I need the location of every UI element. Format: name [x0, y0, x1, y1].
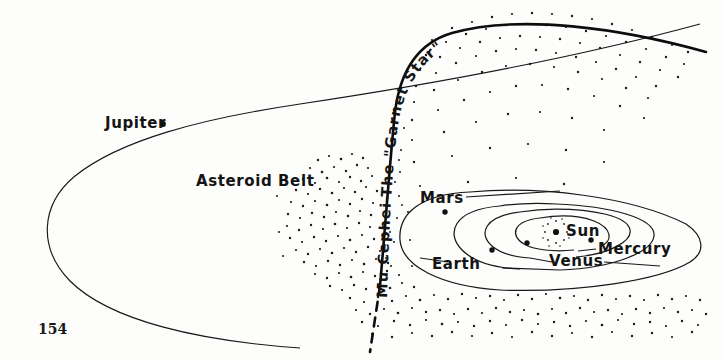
label-venus: Venus [549, 252, 603, 270]
label-sun: Sun [566, 222, 600, 240]
mercury-leader [578, 249, 596, 251]
earth-dot [489, 247, 494, 252]
label-mercury: Mercury [598, 240, 671, 258]
figure-canvas: Jupiter Asteroid Belt Mars Earth Venus M… [0, 0, 722, 360]
page-number: 154 [38, 321, 67, 337]
label-mars: Mars [420, 189, 464, 207]
label-jupiter: Jupiter [104, 114, 166, 132]
label-earth: Earth [432, 255, 481, 273]
venus-leader-2 [604, 262, 660, 266]
venus-dot [524, 240, 529, 245]
mars-dot [442, 209, 447, 214]
jupiter-orbit [47, 24, 700, 348]
label-asteroid-belt: Asteroid Belt [196, 172, 314, 190]
solar-system-diagram: Jupiter Asteroid Belt Mars Earth Venus M… [0, 0, 722, 360]
mars-leader [466, 191, 560, 197]
